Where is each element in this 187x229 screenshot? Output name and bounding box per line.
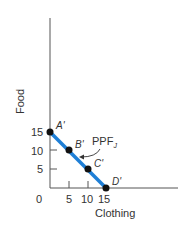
x-tick-label-10: 10 — [81, 193, 93, 205]
point-c — [85, 166, 92, 173]
origin-label: 0 — [36, 193, 42, 205]
ppf-subscript: J — [112, 142, 117, 149]
arrow-head-icon — [79, 155, 84, 160]
point-c-label: C' — [94, 158, 104, 169]
x-tick-label-5: 5 — [66, 193, 72, 205]
ppf-label: PPFJ — [92, 135, 117, 149]
y-axis-label: Food — [14, 89, 26, 114]
ppf-chart: 15 10 5 0 5 10 15 Clothing Food A' B' C'… — [0, 0, 187, 229]
point-d-label: D' — [112, 176, 122, 187]
point-d — [103, 185, 110, 192]
point-a-label: A' — [55, 120, 66, 131]
point-a — [47, 129, 54, 136]
point-b — [66, 147, 73, 154]
y-tick-label-5: 5 — [37, 163, 43, 175]
x-tick-label-15: 15 — [98, 193, 110, 205]
point-b-label: B' — [75, 139, 85, 150]
x-axis-label: Clothing — [95, 207, 135, 219]
y-tick-label-15: 15 — [31, 126, 43, 138]
y-tick-label-10: 10 — [31, 145, 43, 157]
